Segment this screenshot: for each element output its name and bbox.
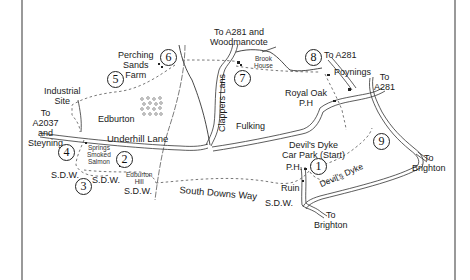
label-devils-dyke-car-park: Devil's Dyke Car Park (Start) bbox=[282, 140, 345, 160]
label-line: and bbox=[28, 128, 63, 138]
label-line: Salmon bbox=[87, 158, 111, 165]
label-line: Brighton bbox=[314, 220, 348, 230]
label-line: Royal Oak bbox=[285, 88, 327, 98]
label-sdw-hill: S.D.W. bbox=[124, 186, 152, 196]
label-line: To bbox=[314, 210, 348, 220]
label-line: Hill bbox=[126, 178, 152, 185]
label-sdw-mid: S.D.W. bbox=[92, 175, 120, 185]
label-line: House bbox=[254, 62, 273, 69]
orchard-symbols bbox=[141, 97, 163, 116]
label-line: Sands bbox=[118, 60, 154, 70]
waypoint-1: 1 bbox=[310, 158, 327, 175]
label-line: To bbox=[374, 72, 395, 82]
waypoint-4: 4 bbox=[58, 144, 75, 161]
label-clappers-lane: Clappers Lans bbox=[217, 74, 227, 132]
label-to-a281-woodmancote: To A281 and Woodmancote bbox=[210, 27, 268, 47]
label-edburton-hill: Edburton Hill bbox=[126, 171, 152, 185]
label-to-a281-east: To A281 bbox=[374, 72, 395, 92]
label-line: Brighton bbox=[412, 163, 446, 173]
waypoint-3: 3 bbox=[75, 178, 92, 195]
label-line: Brook bbox=[254, 55, 273, 62]
label-to-brighton-south: To Brighton bbox=[314, 210, 348, 230]
label-line: Perching bbox=[118, 50, 154, 60]
label-underhill-lane: Underhill Lane bbox=[107, 134, 168, 144]
label-line: P.H bbox=[285, 98, 327, 108]
waypoint-7: 7 bbox=[234, 70, 251, 87]
label-line: Woodmancote bbox=[210, 37, 268, 47]
label-ph: P.H. bbox=[286, 162, 302, 172]
label-line: A2037 bbox=[28, 118, 63, 128]
waypoint-6: 6 bbox=[160, 49, 177, 66]
label-line: Industrial bbox=[44, 86, 81, 96]
label-to-a281-north: To A281 bbox=[324, 50, 357, 60]
label-line: Steyning bbox=[28, 138, 63, 148]
label-royal-oak-ph: Royal Oak P.H bbox=[285, 88, 327, 108]
label-edburton: Edburton bbox=[98, 114, 135, 124]
label-to-a2037-steyning: To A2037 and Steyning bbox=[28, 108, 63, 148]
label-springs-smoked-salmon: Springs Smoked Salmon bbox=[87, 144, 111, 165]
route-map: To A281 and Woodmancote Perching Sands F… bbox=[0, 0, 470, 280]
label-line: To bbox=[412, 153, 446, 163]
label-line: Site bbox=[44, 96, 81, 106]
label-line: A281 bbox=[374, 82, 395, 92]
label-line: Edburton bbox=[126, 171, 152, 178]
label-line: Springs bbox=[87, 144, 111, 151]
waypoint-8: 8 bbox=[305, 49, 322, 66]
label-poynings: Poynings bbox=[334, 67, 371, 77]
label-line: To bbox=[28, 108, 63, 118]
label-line: Devil's Dyke bbox=[282, 140, 345, 150]
label-line: To A281 and bbox=[210, 27, 268, 37]
label-sdw-west: S.D.W. bbox=[51, 170, 79, 180]
label-industrial-site: Industrial Site bbox=[44, 86, 81, 106]
label-brook-house: Brook House bbox=[254, 55, 273, 69]
label-line: Smoked bbox=[87, 151, 111, 158]
waypoint-9: 9 bbox=[373, 133, 390, 150]
label-ruin: Ruin bbox=[281, 183, 300, 193]
label-to-brighton-east: To Brighton bbox=[412, 153, 446, 173]
label-sdw-east: S.D.W. bbox=[265, 198, 293, 208]
waypoint-5: 5 bbox=[107, 71, 124, 88]
label-fulking: Fulking bbox=[236, 121, 265, 131]
waypoint-2: 2 bbox=[116, 151, 133, 168]
